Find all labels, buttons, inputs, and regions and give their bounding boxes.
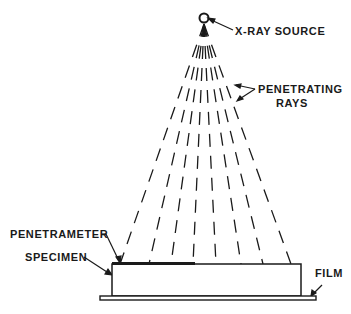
label-film: FILM [315, 267, 343, 279]
film-arrowhead [311, 290, 316, 296]
ray-5 [204, 24, 216, 264]
source-arrowhead [208, 18, 215, 23]
label-penetrating: PENETRATING [258, 83, 343, 95]
film [100, 296, 316, 300]
label-xray-source: X-RAY SOURCE [235, 25, 325, 37]
penetrameter [112, 262, 195, 265]
penetrating-rays [120, 24, 291, 264]
specimen-arrowhead [105, 269, 112, 275]
ray-4 [193, 24, 204, 264]
rays-arrowhead-1 [235, 84, 241, 88]
ray-1 [120, 24, 204, 264]
label-penetrameter: PENETRAMETER [10, 228, 108, 240]
label-specimen: SPECIMEN [25, 251, 87, 263]
label-rays: RAYS [276, 97, 308, 109]
specimen [112, 264, 301, 296]
penetrameter-arrowhead [116, 256, 121, 263]
ray-8 [204, 24, 291, 264]
radiography-diagram: X-RAY SOURCE PENETRATING RAYS PENETRAMET… [0, 0, 351, 314]
xray-source-icon [200, 14, 209, 23]
ray-7 [204, 24, 263, 264]
